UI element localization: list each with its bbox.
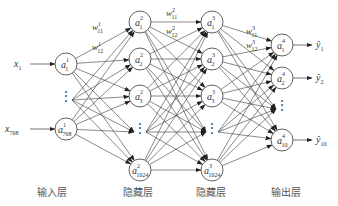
edge bbox=[146, 101, 202, 132]
edge bbox=[220, 109, 276, 162]
weight-label: w211 bbox=[166, 7, 177, 20]
edge bbox=[218, 54, 275, 132]
output-label: ŷ2 bbox=[315, 72, 323, 85]
neural-network-diagram: a11⋮a1768a21a22a23⋮a21024a31a32a33⋮a3102… bbox=[0, 0, 338, 206]
edge bbox=[222, 145, 272, 166]
edge bbox=[76, 68, 130, 91]
edge bbox=[77, 129, 134, 132]
edge bbox=[72, 73, 134, 161]
edge bbox=[72, 100, 132, 162]
output-label: ŷ1 bbox=[315, 39, 323, 52]
edge bbox=[147, 67, 206, 132]
edge bbox=[148, 30, 205, 88]
layer-label-hidden-1: 隐藏层 bbox=[123, 184, 153, 199]
edge bbox=[76, 134, 131, 164]
ellipsis-vertical: ⋮ bbox=[134, 121, 146, 135]
input-label: x768 bbox=[4, 123, 18, 136]
layer-label-output: 输出层 bbox=[271, 184, 301, 199]
ellipsis-vertical: ⋮ bbox=[206, 121, 218, 135]
ellipsis-vertical: ⋮ bbox=[276, 98, 288, 112]
output-label: ŷ10 bbox=[315, 134, 326, 147]
layer-label-input: 输入层 bbox=[37, 184, 67, 199]
edge bbox=[76, 28, 131, 58]
input-label: x1 bbox=[13, 58, 21, 71]
edge bbox=[72, 30, 133, 100]
ellipsis-vertical: ⋮ bbox=[60, 89, 72, 103]
layer-label-hidden-2: 隐藏层 bbox=[196, 184, 226, 199]
edge bbox=[72, 65, 131, 100]
edge bbox=[72, 31, 134, 119]
edge bbox=[77, 60, 129, 63]
edge bbox=[150, 132, 206, 165]
weight-label: w111 bbox=[92, 21, 103, 34]
edge bbox=[148, 30, 205, 88]
edge bbox=[218, 132, 271, 139]
weight-label: w311 bbox=[246, 25, 257, 38]
edge bbox=[148, 104, 205, 162]
edge bbox=[150, 101, 206, 132]
edge bbox=[148, 104, 205, 162]
weight-label: w112 bbox=[92, 41, 103, 54]
edge bbox=[72, 100, 134, 132]
edge bbox=[221, 52, 274, 89]
